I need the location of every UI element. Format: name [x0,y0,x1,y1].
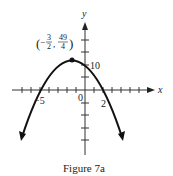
tick-label-neg5: −5 [34,95,45,106]
svg-text:−: − [40,37,45,47]
curve-arrow-left-icon [19,131,26,141]
svg-text:49: 49 [59,33,67,42]
tick-label-0: 0 [78,92,83,103]
svg-text:4: 4 [61,42,65,51]
parabola-chart: y x −5 0 2 10 ( − 3 2 , 49 4 ) Figure 7a [0,0,173,176]
svg-text:2: 2 [47,42,51,51]
svg-text:3: 3 [47,33,51,42]
figure-caption: Figure 7a [63,162,105,174]
curve-arrow-right-icon [118,131,125,141]
svg-text:): ) [69,36,73,51]
y-axis-label: y [81,8,87,19]
x-axis-arrow-icon [147,87,155,93]
tick-label-10: 10 [90,60,100,71]
vertex-point [70,58,75,63]
tick-label-2: 2 [101,98,106,109]
vertex-label: ( − 3 2 , 49 4 ) [36,33,73,51]
y-axis-arrow-icon [82,22,88,30]
svg-text:,: , [53,39,55,49]
x-axis-label: x [157,84,163,95]
